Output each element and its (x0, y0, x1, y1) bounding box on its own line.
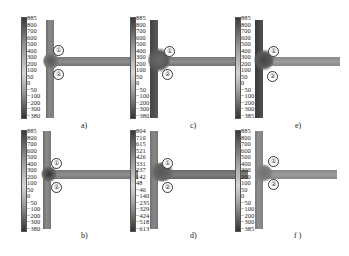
marker-1: ① (164, 46, 175, 57)
panel-caption: c) (190, 121, 196, 130)
panel-caption: a) (81, 121, 87, 130)
horizontal-plate (51, 170, 138, 179)
horizontal-plate (158, 57, 241, 66)
panel-caption: b) (81, 231, 88, 240)
panel-a: 885 800 700 600 500 400 300 200 100 50 0… (21, 17, 137, 142)
horizontal-plate (263, 170, 337, 179)
tick: −380 (27, 226, 57, 233)
panel-caption: e) (295, 121, 301, 130)
marker-1: ① (268, 46, 279, 57)
marker-2: ② (268, 179, 279, 190)
panel-caption: f ) (294, 231, 301, 240)
panel-f: 885 800 700 600 500 400 300 200 100 50 0… (235, 130, 349, 255)
panel-d: 804 710 615 521 426 331 237 142 48 −46 −… (130, 130, 246, 255)
horizontal-plate (54, 57, 130, 66)
panel-b: 885 800 700 600 500 400 300 200 100 50 0… (21, 130, 137, 255)
panel-caption: d) (190, 231, 197, 240)
marker-2: ② (162, 69, 173, 80)
marker-1: ① (51, 158, 62, 169)
marker-2: ② (53, 69, 64, 80)
marker-2: ② (267, 71, 278, 82)
marker-2: ② (51, 182, 62, 193)
marker-1: ① (53, 45, 64, 56)
marker-2: ② (162, 182, 173, 193)
panel-e: 885 800 700 600 500 400 300 200 100 50 0… (235, 17, 349, 142)
panel-c: 885 800 700 600 500 400 300 200 100 50 0… (130, 17, 246, 142)
horizontal-plate (263, 57, 340, 66)
marker-1: ① (162, 158, 173, 169)
marker-1: ① (268, 156, 279, 167)
